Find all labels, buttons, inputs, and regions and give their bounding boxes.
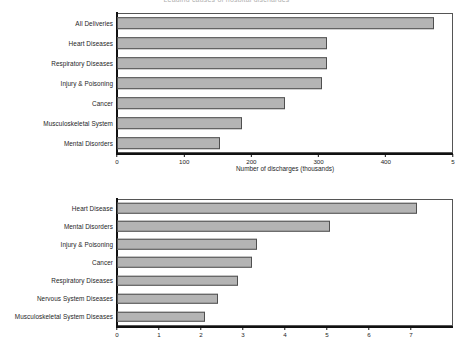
x-tick: 0 bbox=[115, 327, 118, 339]
bar bbox=[117, 275, 238, 286]
x-axis-title: Number of discharges (thousands) bbox=[117, 165, 453, 172]
x-tick: 6 bbox=[367, 327, 370, 339]
bar-row: Musculoskeletal System bbox=[0, 113, 453, 133]
bar bbox=[117, 239, 257, 250]
tick-mark bbox=[116, 327, 117, 330]
category-label: Injury & Poisoning bbox=[1, 241, 113, 248]
bar bbox=[117, 221, 330, 232]
bar-track bbox=[117, 217, 453, 235]
bar-track bbox=[117, 33, 453, 53]
bar-track bbox=[117, 199, 453, 217]
tick-mark bbox=[242, 327, 243, 330]
category-label: Respiratory Diseases bbox=[1, 277, 113, 284]
bar bbox=[117, 312, 205, 323]
tick-label: 2 bbox=[199, 331, 202, 339]
bar-track bbox=[117, 113, 453, 133]
x-tick: 3 bbox=[241, 327, 244, 339]
bar bbox=[117, 294, 218, 305]
bar-row: Mental Disorders bbox=[0, 133, 453, 153]
bar-row: Heart Disease bbox=[0, 199, 453, 217]
tick-mark bbox=[251, 154, 252, 157]
bar-row: All Deliveries bbox=[0, 13, 453, 33]
bar-row: Injury & Poisoning bbox=[0, 73, 453, 93]
tick-label: 3 bbox=[241, 331, 244, 339]
bar-row: Cancer bbox=[0, 93, 453, 113]
bar bbox=[117, 37, 327, 49]
tick-mark bbox=[385, 154, 386, 157]
bar-row: Mental Disorders bbox=[0, 217, 453, 235]
category-label: Cancer bbox=[1, 100, 113, 107]
tick-mark bbox=[452, 154, 453, 157]
category-label: All Deliveries bbox=[1, 20, 113, 27]
category-label: Heart Disease bbox=[1, 205, 113, 212]
category-label: Mental Disorders bbox=[1, 223, 113, 230]
bar bbox=[117, 117, 242, 129]
bar-row: Respiratory Diseases bbox=[0, 53, 453, 73]
tick-mark bbox=[410, 327, 411, 330]
bar bbox=[117, 97, 285, 109]
bar-track bbox=[117, 235, 453, 253]
bar-track bbox=[117, 93, 453, 113]
tick-mark bbox=[200, 327, 201, 330]
bar bbox=[117, 203, 417, 214]
tick-label: 1 bbox=[157, 331, 160, 339]
x-tick: 1 bbox=[157, 327, 160, 339]
tick-mark bbox=[368, 327, 369, 330]
bar-track bbox=[117, 13, 453, 33]
bar-row: Nervous System Diseases bbox=[0, 290, 453, 308]
x-tick: 4 bbox=[283, 327, 286, 339]
bar bbox=[117, 77, 322, 89]
category-label: Nervous System Diseases bbox=[1, 295, 113, 302]
category-label: Mental Disorders bbox=[1, 140, 113, 147]
bar-chart-discharges: Leading causes of hospital discharges Al… bbox=[0, 0, 453, 178]
bar-row: Injury & Poisoning bbox=[0, 235, 453, 253]
bar-row: Cancer bbox=[0, 253, 453, 271]
bar bbox=[117, 137, 220, 149]
bar-track bbox=[117, 308, 453, 326]
tick-label: 0 bbox=[115, 331, 118, 339]
bar-rows: Heart DiseaseMental DisordersInjury & Po… bbox=[0, 199, 453, 326]
x-tick: 5 bbox=[325, 327, 328, 339]
bar-track bbox=[117, 133, 453, 153]
bar bbox=[117, 257, 252, 268]
tick-label: 6 bbox=[367, 331, 370, 339]
tick-mark bbox=[318, 154, 319, 157]
tick-mark bbox=[284, 327, 285, 330]
x-tick: 7 bbox=[409, 327, 412, 339]
bar-row: Respiratory Diseases bbox=[0, 272, 453, 290]
bar-chart-causes: Heart DiseaseMental DisordersInjury & Po… bbox=[0, 186, 453, 348]
category-label: Cancer bbox=[1, 259, 113, 266]
tick-label: 7 bbox=[409, 331, 412, 339]
bar bbox=[117, 17, 434, 29]
category-label: Respiratory Diseases bbox=[1, 60, 113, 67]
bar-track bbox=[117, 253, 453, 271]
bar-track bbox=[117, 53, 453, 73]
category-label: Musculoskeletal System bbox=[1, 120, 113, 127]
tick-mark bbox=[116, 154, 117, 157]
category-label: Injury & Poisoning bbox=[1, 80, 113, 87]
bar-track bbox=[117, 272, 453, 290]
bar-track bbox=[117, 73, 453, 93]
tick-label: 5 bbox=[325, 331, 328, 339]
tick-mark bbox=[326, 327, 327, 330]
category-label: Musculoskeletal System Diseases bbox=[1, 313, 113, 320]
bar bbox=[117, 57, 327, 69]
chart-title: Leading causes of hospital discharges bbox=[0, 0, 453, 2]
tick-label: 4 bbox=[283, 331, 286, 339]
bar-row: Heart Diseases bbox=[0, 33, 453, 53]
bar-row: Musculoskeletal System Diseases bbox=[0, 308, 453, 326]
bar-track bbox=[117, 290, 453, 308]
x-axis-ticks: 01234567 bbox=[117, 327, 453, 341]
tick-mark bbox=[158, 327, 159, 330]
tick-mark bbox=[184, 154, 185, 157]
x-tick: 2 bbox=[199, 327, 202, 339]
category-label: Heart Diseases bbox=[1, 40, 113, 47]
bar-rows: All DeliveriesHeart DiseasesRespiratory … bbox=[0, 13, 453, 153]
